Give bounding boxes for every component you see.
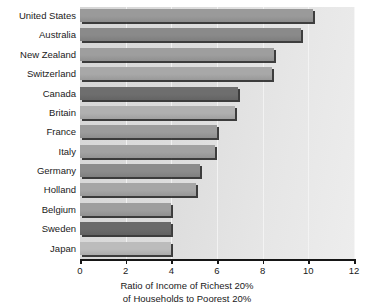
bar-belgium: [80, 203, 171, 216]
category-label-japan: Japan: [0, 243, 76, 254]
bar-row: [80, 46, 354, 65]
category-label-italy: Italy: [0, 146, 76, 157]
bar-row: [80, 123, 354, 142]
category-label-holland: Holland: [0, 184, 76, 195]
x-tick-6: [217, 259, 219, 264]
x-tick-label-4: 4: [158, 265, 184, 276]
bar-row: [80, 181, 354, 200]
x-tick-12: [354, 259, 356, 264]
bar-row: [80, 162, 354, 181]
bar-france: [80, 125, 217, 138]
bar-canada: [80, 87, 238, 100]
category-label-france: France: [0, 126, 76, 137]
x-tick-10: [308, 259, 310, 264]
bar-row: [80, 65, 354, 84]
category-label-germany: Germany: [0, 165, 76, 176]
bar-australia: [80, 28, 301, 41]
x-tick-8: [263, 259, 265, 264]
x-axis-title: Ratio of Income of Richest 20% of Househ…: [0, 280, 374, 305]
x-tick-label-0: 0: [67, 265, 93, 276]
bar-row: [80, 26, 354, 45]
bar-chart: United StatesAustraliaNew ZealandSwitzer…: [0, 0, 374, 307]
x-tick-label-6: 6: [204, 265, 230, 276]
category-label-australia: Australia: [0, 29, 76, 40]
x-tick-label-10: 10: [295, 265, 321, 276]
category-label-new-zealand: New Zealand: [0, 49, 76, 60]
bar-row: [80, 143, 354, 162]
bar-switzerland: [80, 67, 272, 80]
category-label-belgium: Belgium: [0, 204, 76, 215]
bar-new-zealand: [80, 48, 274, 61]
bar-italy: [80, 145, 215, 158]
category-label-sweden: Sweden: [0, 223, 76, 234]
category-label-united-states: United States: [0, 10, 76, 21]
bar-united-states: [80, 9, 313, 22]
category-label-canada: Canada: [0, 88, 76, 99]
bar-row: [80, 240, 354, 259]
bar-row: [80, 7, 354, 26]
bar-holland: [80, 183, 196, 196]
gridline-x-12: [354, 7, 355, 259]
x-axis-title-line-2: of Households to Poorest 20%: [0, 293, 374, 306]
bar-britain: [80, 106, 235, 119]
x-tick-2: [126, 259, 128, 264]
bar-germany: [80, 164, 200, 177]
category-label-switzerland: Switzerland: [0, 68, 76, 79]
x-tick-label-8: 8: [250, 265, 276, 276]
bar-sweden: [80, 222, 171, 235]
x-axis-title-line-1: Ratio of Income of Richest 20%: [0, 280, 374, 293]
x-tick-label-2: 2: [113, 265, 139, 276]
category-axis-labels: United StatesAustraliaNew ZealandSwitzer…: [0, 7, 76, 259]
x-tick-4: [171, 259, 173, 264]
x-tick-label-12: 12: [341, 265, 367, 276]
bar-row: [80, 201, 354, 220]
bar-row: [80, 85, 354, 104]
plot-area: [80, 7, 354, 259]
category-label-britain: Britain: [0, 107, 76, 118]
x-tick-0: [80, 259, 82, 264]
bar-row: [80, 220, 354, 239]
bar-row: [80, 104, 354, 123]
bar-japan: [80, 242, 171, 255]
